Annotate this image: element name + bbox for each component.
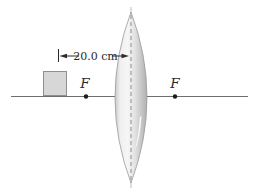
object-square [44,72,67,96]
lens-diagram-figure: F F 20.0 cm [0,0,256,190]
dimension-label: 20.0 cm [73,50,118,63]
focal-point-right-dot [173,94,177,98]
dimension-arrowhead-left [60,54,68,59]
focal-point-left-label: F [79,75,90,91]
lens-diagram-canvas: F F 20.0 cm [0,0,256,190]
focal-point-left-dot [84,94,88,98]
focal-point-right-label: F [169,75,180,91]
